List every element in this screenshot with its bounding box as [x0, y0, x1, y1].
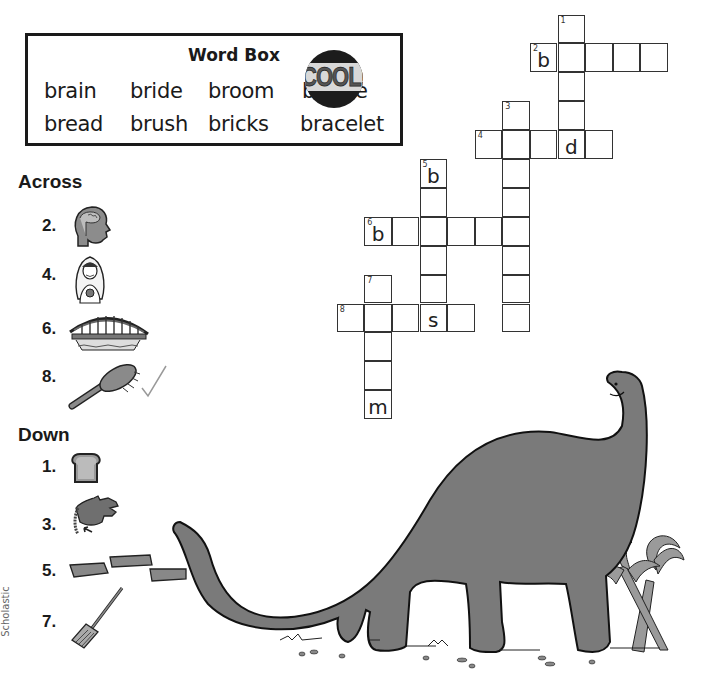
clue-number-label: 1: [561, 16, 566, 25]
crossword-cell[interactable]: [475, 217, 503, 246]
brush-icon: [68, 364, 168, 412]
crossword-cell[interactable]: d: [558, 130, 586, 159]
crossword-cell[interactable]: s: [420, 304, 448, 333]
clue-number: 8.: [42, 367, 56, 387]
cell-letter: b: [421, 164, 447, 188]
crossword-cell[interactable]: [420, 246, 448, 275]
crossword-cell[interactable]: [392, 304, 420, 333]
hand-with-bracelet-icon: [70, 494, 122, 540]
crossword-cell[interactable]: [530, 130, 558, 159]
crossword-cell[interactable]: [502, 130, 530, 159]
crossword-cell[interactable]: [613, 43, 641, 72]
word-box-word: brain: [44, 79, 96, 103]
copyright-credit: Scholastic: [0, 582, 14, 642]
across-heading: Across: [18, 171, 82, 193]
crossword-cell[interactable]: [420, 188, 448, 217]
crossword-cell[interactable]: [558, 101, 586, 130]
crossword-cell[interactable]: [502, 188, 530, 217]
clue-number: 6.: [42, 319, 56, 339]
down-heading: Down: [18, 424, 70, 446]
word-box-word: bread: [44, 112, 103, 136]
bridge-icon: [68, 310, 150, 354]
word-box-word: brush: [130, 112, 188, 136]
crossword-cell[interactable]: [420, 217, 448, 246]
crossword-cell[interactable]: [447, 217, 475, 246]
crossword-cell[interactable]: [558, 43, 586, 72]
word-box-word: bracelet: [300, 112, 384, 136]
word-box-word: broom: [208, 79, 274, 103]
crossword-cell[interactable]: [640, 43, 668, 72]
clue-number: 4.: [42, 265, 56, 285]
clue-number: 2.: [42, 216, 56, 236]
crossword-cell[interactable]: 5b: [420, 159, 448, 188]
crossword-cell[interactable]: 7: [364, 275, 392, 304]
crossword-cell[interactable]: 8: [337, 304, 365, 333]
word-box-word: bride: [130, 79, 183, 103]
crossword-cell[interactable]: 3: [502, 101, 530, 130]
crossword-cell[interactable]: [502, 246, 530, 275]
clue-number-label: 8: [340, 305, 345, 314]
crossword-cell[interactable]: [558, 72, 586, 101]
crossword-cell[interactable]: [502, 217, 530, 246]
crossword-cell[interactable]: [420, 275, 448, 304]
cell-letter: d: [559, 135, 585, 159]
crossword-cell[interactable]: 1: [558, 15, 586, 44]
brontosaurus-illustration: [170, 360, 700, 680]
crossword-cell[interactable]: [502, 275, 530, 304]
crossword-cell[interactable]: [364, 304, 392, 333]
cool-sticker-text: COOL!: [305, 61, 363, 94]
checkmark-icon: [142, 366, 166, 396]
clue-number: 5.: [42, 561, 56, 581]
crossword-cell[interactable]: [585, 43, 613, 72]
crossword-cell[interactable]: [502, 304, 530, 333]
bread-slice-icon: [70, 452, 102, 486]
crossword-cell[interactable]: [585, 130, 613, 159]
crossword-cell[interactable]: [364, 332, 392, 361]
clue-number: 1.: [42, 457, 56, 477]
clue-number-label: 7: [367, 276, 372, 285]
head-with-brain-icon: [70, 204, 112, 246]
broom-icon: [70, 586, 126, 652]
bride-icon: [68, 251, 112, 305]
word-box-word: bricks: [208, 112, 269, 136]
crossword-cell[interactable]: 6b: [364, 217, 392, 246]
crossword-cell[interactable]: [447, 304, 475, 333]
cell-letter: s: [421, 308, 447, 332]
crossword-cell[interactable]: [502, 159, 530, 188]
crossword-cell[interactable]: [392, 217, 420, 246]
clue-number: 7.: [42, 612, 56, 632]
clue-number-label: 3: [505, 102, 510, 111]
crossword-cell[interactable]: 2b: [530, 43, 558, 72]
credit-text: Scholastic: [0, 586, 11, 637]
cell-letter: b: [365, 222, 391, 246]
clue-number: 3.: [42, 515, 56, 535]
crossword-cell[interactable]: 4: [475, 130, 503, 159]
cell-letter: b: [531, 48, 557, 72]
cool-sticker: COOL!: [305, 50, 363, 108]
clue-number-label: 4: [478, 131, 483, 140]
